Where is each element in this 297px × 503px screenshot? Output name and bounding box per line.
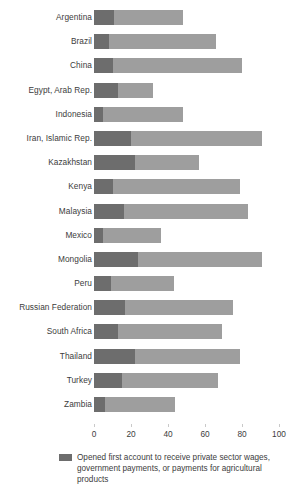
axis-tick [131, 424, 132, 427]
bar-track [94, 83, 279, 98]
category-label: Zambia [0, 397, 92, 412]
bar-row: Kenya [0, 179, 297, 203]
axis-tick [168, 424, 169, 427]
bar-row: Russian Federation [0, 300, 297, 324]
bar-row: Egypt, Arab Rep. [0, 83, 297, 107]
bar-row: Thailand [0, 349, 297, 373]
category-label: Indonesia [0, 107, 92, 122]
bar-row: Kazakhstan [0, 155, 297, 179]
bar-segment-other [122, 373, 218, 388]
bar-segment-other [118, 324, 222, 339]
category-label: Iran, Islamic Rep. [0, 131, 92, 146]
axis-tick-label: 100 [259, 429, 297, 439]
category-label: Turkey [0, 373, 92, 388]
bar-segment-first-account [94, 83, 118, 98]
bar-row: Peru [0, 276, 297, 300]
axis-tick [94, 424, 95, 427]
bar-segment-other [103, 107, 183, 122]
bar-row: Malaysia [0, 204, 297, 228]
axis-tick-label: 0 [74, 429, 114, 439]
bar-track [94, 10, 279, 25]
bar-row: Argentina [0, 10, 297, 34]
bar-row: Indonesia [0, 107, 297, 131]
bar-segment-first-account [94, 228, 103, 243]
category-label: Malaysia [0, 204, 92, 219]
bar-track [94, 131, 279, 146]
bar-track [94, 397, 279, 412]
bar-segment-first-account [94, 324, 118, 339]
category-label: Kazakhstan [0, 155, 92, 170]
bar-segment-other [124, 204, 248, 219]
bar-row: Iran, Islamic Rep. [0, 131, 297, 155]
bar-segment-first-account [94, 155, 135, 170]
bar-segment-other [113, 58, 243, 73]
axis-tick-label: 40 [148, 429, 188, 439]
bar-segment-first-account [94, 58, 113, 73]
axis-tick [279, 424, 280, 427]
bar-segment-first-account [94, 107, 103, 122]
bar-row: China [0, 58, 297, 82]
category-label: South Africa [0, 324, 92, 339]
bar-segment-first-account [94, 252, 138, 267]
bar-row: Mexico [0, 228, 297, 252]
bar-segment-other [103, 228, 160, 243]
bar-track [94, 179, 279, 194]
bar-track [94, 204, 279, 219]
bar-segment-other [109, 34, 216, 49]
bar-segment-other [138, 252, 262, 267]
bar-segment-other [113, 179, 241, 194]
bar-track [94, 228, 279, 243]
stacked-bar-chart: ArgentinaBrazilChinaEgypt, Arab Rep.Indo… [0, 0, 297, 503]
category-label: Egypt, Arab Rep. [0, 83, 92, 98]
axis-tick-label: 20 [111, 429, 151, 439]
category-label: Mongolia [0, 252, 92, 267]
category-label: Thailand [0, 349, 92, 364]
bar-segment-other [105, 397, 175, 412]
category-label: Mexico [0, 228, 92, 243]
category-label: Peru [0, 276, 92, 291]
bar-segment-first-account [94, 204, 124, 219]
x-axis: 020406080100 [94, 424, 279, 444]
bar-track [94, 349, 279, 364]
bar-segment-other [118, 83, 153, 98]
bar-row: Mongolia [0, 252, 297, 276]
bar-track [94, 107, 279, 122]
axis-tick-label: 60 [185, 429, 225, 439]
bar-segment-other [125, 300, 232, 315]
bar-segment-first-account [94, 34, 109, 49]
bar-track [94, 155, 279, 170]
bar-track [94, 276, 279, 291]
bar-track [94, 373, 279, 388]
axis-tick-label: 80 [222, 429, 262, 439]
bar-segment-other [111, 276, 174, 291]
bar-segment-first-account [94, 373, 122, 388]
bar-segment-first-account [94, 131, 131, 146]
bar-row: Zambia [0, 397, 297, 421]
bar-track [94, 252, 279, 267]
bar-row: Turkey [0, 373, 297, 397]
legend-swatch-dark [59, 454, 72, 461]
bar-segment-other [135, 349, 240, 364]
bar-segment-other [114, 10, 182, 25]
bar-track [94, 324, 279, 339]
bar-track [94, 34, 279, 49]
category-label: Russian Federation [0, 300, 92, 315]
chart-legend: Opened first account to receive private … [59, 452, 297, 486]
bar-segment-first-account [94, 397, 105, 412]
bar-track [94, 300, 279, 315]
axis-tick [242, 424, 243, 427]
category-label: Argentina [0, 10, 92, 25]
legend-label: Opened first account to receive private … [77, 452, 289, 486]
bar-segment-first-account [94, 10, 114, 25]
category-label: Brazil [0, 34, 92, 49]
axis-tick [205, 424, 206, 427]
plot-area: ArgentinaBrazilChinaEgypt, Arab Rep.Indo… [0, 10, 297, 420]
bar-track [94, 58, 279, 73]
bar-row: South Africa [0, 324, 297, 348]
bar-segment-first-account [94, 179, 113, 194]
category-label: China [0, 58, 92, 73]
bar-segment-other [135, 155, 200, 170]
bar-segment-first-account [94, 349, 135, 364]
category-label: Kenya [0, 179, 92, 194]
bar-segment-first-account [94, 300, 125, 315]
